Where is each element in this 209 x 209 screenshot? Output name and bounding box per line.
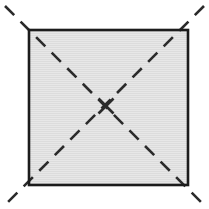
- diagram-canvas: [0, 0, 209, 209]
- diagram-svg: [0, 0, 209, 209]
